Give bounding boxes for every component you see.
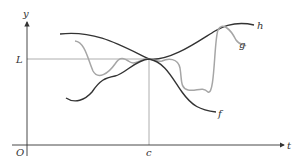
squeeze-theorem-figure: y t O L c h g f bbox=[0, 0, 294, 163]
limit-label-L: L bbox=[15, 54, 23, 65]
diagram-canvas: y t O L c h g f bbox=[0, 0, 294, 163]
origin-label: O bbox=[16, 147, 24, 158]
curve-h-label: h bbox=[257, 20, 263, 31]
curve-h bbox=[60, 24, 254, 60]
point-label-c: c bbox=[146, 147, 152, 158]
t-axis-label: t bbox=[287, 140, 292, 151]
y-axis-label: y bbox=[22, 8, 29, 19]
curve-g-label: g bbox=[239, 39, 245, 50]
curve-f-label: f bbox=[217, 108, 224, 119]
curve-f bbox=[66, 59, 216, 112]
